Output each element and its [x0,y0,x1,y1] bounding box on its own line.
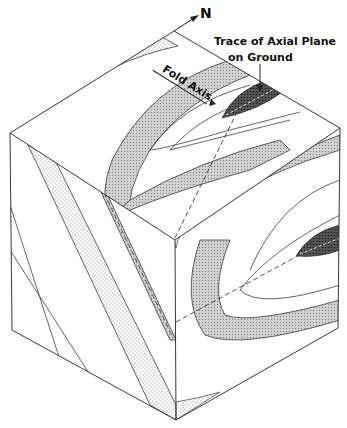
north-label: N [200,5,212,21]
north-arrow-icon [174,15,199,31]
fold-block-diagram: N Trace of Axial Plane on Ground Fold Ax… [0,0,347,428]
trace-label-line2: on Ground [228,51,293,64]
trace-label-line1: Trace of Axial Plane [214,35,336,48]
